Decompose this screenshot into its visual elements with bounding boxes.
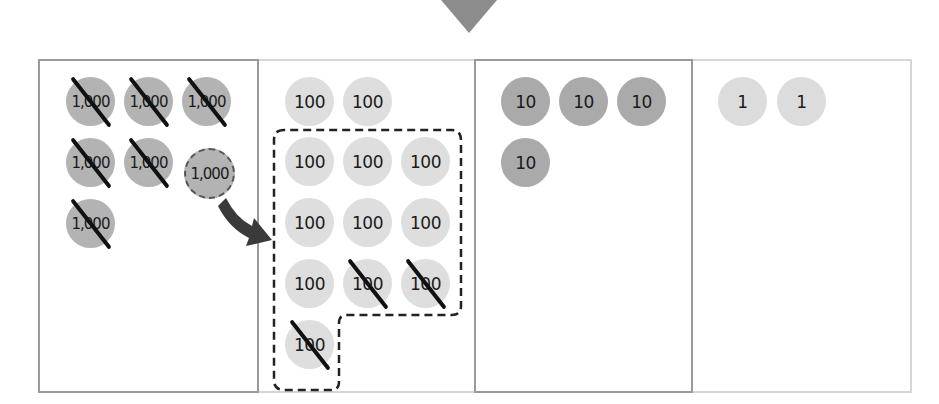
thousand-disk: 1,000	[66, 77, 115, 126]
hundred-disk: 100	[401, 259, 450, 308]
hundred-disk: 100	[343, 77, 392, 126]
down-arrow-indicator	[441, 0, 497, 33]
ten-disk: 10	[617, 77, 666, 126]
regrouped-thousand-disk: 1,000	[184, 148, 235, 199]
thousand-disk: 1,000	[124, 77, 173, 126]
one-disk: 1	[718, 77, 767, 126]
hundred-disk: 100	[285, 137, 334, 186]
hundred-disk: 100	[401, 137, 450, 186]
ten-disk: 10	[559, 77, 608, 126]
ten-disk: 10	[501, 138, 550, 187]
hundred-disk: 100	[343, 198, 392, 247]
hundreds-column: 100 100 100 100 100 100 100 100 100 100 …	[257, 59, 476, 393]
thousands-column: 1,000 1,000 1,000 1,000 1,000 1,000 1,00…	[38, 59, 259, 393]
thousand-disk: 1,000	[66, 199, 115, 248]
hundred-disk: 100	[401, 198, 450, 247]
thousand-disk: 1,000	[182, 77, 231, 126]
hundred-disk: 100	[285, 77, 334, 126]
hundred-disk: 100	[285, 259, 334, 308]
thousand-disk: 1,000	[66, 138, 115, 187]
hundred-disk: 100	[343, 137, 392, 186]
ones-column: 1 1	[691, 59, 912, 393]
hundred-disk: 100	[285, 320, 334, 369]
tens-column: 10 10 10 10	[474, 59, 693, 393]
thousand-disk: 1,000	[124, 138, 173, 187]
hundred-disk: 100	[343, 259, 392, 308]
ten-disk: 10	[501, 77, 550, 126]
one-disk: 1	[777, 77, 826, 126]
hundred-disk: 100	[285, 198, 334, 247]
